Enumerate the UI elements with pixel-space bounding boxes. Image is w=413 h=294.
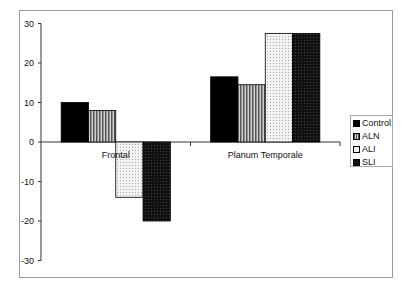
legend-label: ALI: [362, 144, 376, 154]
bar-sli: [293, 33, 320, 142]
y-tick-label: -20: [21, 216, 34, 226]
bar-aln: [238, 85, 265, 142]
y-tick-label: -30: [21, 256, 34, 266]
bar-sli: [143, 142, 170, 221]
bar-control: [61, 103, 88, 143]
legend-label: ALN: [362, 131, 380, 141]
legend-item-control: Control: [351, 117, 392, 129]
x-category-label: Frontal: [102, 150, 130, 160]
legend-swatch-dark-icon: [353, 159, 360, 166]
legend-item-ali: ALI: [351, 143, 392, 155]
legend-item-aln: ALN: [351, 130, 392, 142]
legend-label: SLI: [362, 157, 376, 167]
y-tick-label: 10: [24, 98, 34, 108]
legend-swatch-dots-icon: [353, 146, 360, 153]
legend: Control ALN ALI SLI: [350, 115, 393, 167]
y-tick-label: 20: [24, 58, 34, 68]
y-tick-label: -10: [21, 177, 34, 187]
legend-swatch-solid-icon: [353, 120, 360, 127]
legend-label: Control: [362, 118, 391, 128]
legend-swatch-stripes-icon: [353, 133, 360, 140]
bars: [61, 33, 320, 221]
y-tick-label: 30: [24, 19, 34, 29]
x-category-label: Planum Temporale: [228, 150, 303, 160]
bar-control: [211, 77, 238, 142]
bar-ali: [265, 33, 292, 142]
legend-item-sli: SLI: [351, 156, 392, 168]
y-tick-label: 0: [29, 137, 34, 147]
bar-aln: [88, 110, 115, 142]
